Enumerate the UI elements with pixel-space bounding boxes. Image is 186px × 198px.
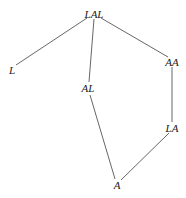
node-LAL: LAL bbox=[85, 9, 104, 20]
node-L: L bbox=[9, 65, 15, 76]
edge-LAL-L bbox=[16, 18, 87, 65]
edge-AL-A bbox=[90, 95, 115, 179]
edge-LA-A bbox=[121, 133, 169, 180]
node-LA: LA bbox=[166, 123, 179, 134]
node-AL: AL bbox=[82, 83, 95, 94]
edge-LAL-AL bbox=[89, 19, 94, 82]
node-A: A bbox=[114, 180, 121, 191]
lattice-edges bbox=[0, 0, 186, 198]
edge-LAL-AA bbox=[101, 18, 168, 57]
node-AA: AA bbox=[165, 57, 178, 68]
